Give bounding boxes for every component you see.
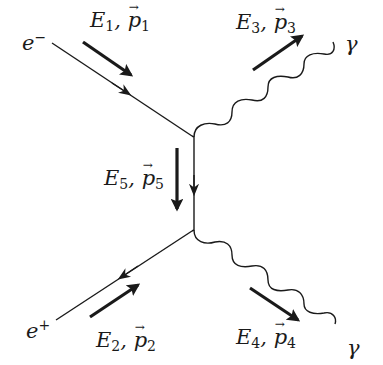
momentum-arrow-p4 (250, 288, 298, 320)
index: 1 (141, 18, 150, 34)
index: 3 (287, 20, 296, 36)
separator: , (128, 166, 141, 190)
charge-superscript: + (38, 317, 50, 333)
momentum-label-5: E5, p5 (104, 168, 164, 191)
index: 5 (119, 176, 128, 192)
momentum-arrow-p1 (83, 42, 131, 75)
photon-top-label: γ (345, 34, 358, 55)
positron-line (56, 231, 192, 320)
momentum-arrow-p2 (90, 285, 138, 317)
index: 5 (155, 176, 164, 192)
separator: , (114, 8, 127, 32)
charge-superscript: − (34, 29, 46, 45)
separator: , (260, 325, 273, 349)
index: 2 (147, 338, 156, 354)
index: 2 (111, 338, 120, 354)
momentum-vector: p (274, 327, 287, 348)
energy-symbol: E (96, 328, 111, 352)
energy-symbol: E (236, 325, 251, 349)
momentum-vector: p (142, 168, 155, 189)
electron-label: e− (22, 30, 46, 54)
momentum-label-2: E2, p2 (96, 330, 156, 353)
momentum-vector: p (274, 12, 287, 33)
momentum-label-3: E3, p3 (236, 12, 296, 35)
momentum-arrow-p3 (253, 36, 302, 70)
particle-symbol: e (22, 31, 34, 55)
separator: , (260, 10, 273, 34)
momentum-vector: p (128, 10, 141, 31)
photon-top-wavy-line (194, 42, 334, 137)
momentum-vector: p (134, 330, 147, 351)
electron-line (52, 43, 192, 136)
separator: , (120, 328, 133, 352)
photon-bottom-label: γ (347, 338, 360, 359)
index: 3 (251, 20, 260, 36)
feynman-diagram: e− e+ γ γ E1, p1 E2, p2 E3, p3 E4, p4 E5… (0, 0, 383, 365)
index: 4 (251, 335, 260, 351)
positron-label: e+ (26, 318, 50, 342)
particle-symbol: e (26, 319, 38, 343)
index: 4 (287, 335, 296, 351)
energy-symbol: E (236, 10, 251, 34)
diagram-lines (0, 0, 383, 365)
energy-symbol: E (90, 8, 105, 32)
energy-symbol: E (104, 166, 119, 190)
propagator-line (192, 136, 194, 231)
momentum-label-1: E1, p1 (90, 10, 150, 33)
momentum-label-4: E4, p4 (236, 327, 296, 350)
index: 1 (105, 18, 114, 34)
photon-bottom-wavy-line (194, 230, 336, 324)
